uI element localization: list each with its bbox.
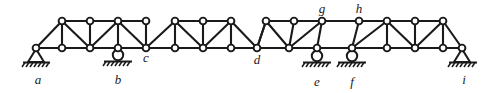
joint-node — [143, 18, 150, 25]
diagonal-member — [203, 21, 231, 48]
joint-node — [59, 18, 66, 25]
roller-circle-icon — [312, 51, 322, 61]
joint-node — [200, 18, 207, 25]
joint-node — [286, 45, 293, 52]
diagonal-member — [62, 21, 90, 48]
label-a: a — [35, 72, 42, 87]
joint-node — [172, 45, 179, 52]
joint-node — [384, 45, 391, 52]
joint-node-b — [115, 45, 122, 52]
joint-node — [412, 18, 419, 25]
joint-node — [59, 45, 66, 52]
roller-circle-icon — [347, 51, 357, 61]
truss-members — [36, 21, 462, 48]
joint-node — [384, 18, 391, 25]
joint-node-i — [459, 45, 466, 52]
diagonal-member — [266, 21, 289, 48]
joint-node — [228, 18, 235, 25]
joint-labels: a b c d e f g h i — [35, 1, 466, 89]
joint-node-d — [254, 45, 261, 52]
label-f: f — [350, 74, 356, 89]
truss-diagram-svg: a b c d e f g h i — [0, 0, 492, 93]
support-roller-e — [302, 51, 331, 67]
label-e: e — [314, 74, 320, 89]
joint-node — [291, 18, 298, 25]
diagonal-member — [415, 21, 443, 48]
joint-node — [115, 18, 122, 25]
joint-node — [440, 45, 447, 52]
joint-node — [87, 45, 94, 52]
diagonal-member — [90, 21, 118, 48]
label-d: d — [254, 52, 261, 67]
label-c: c — [143, 50, 149, 65]
label-i: i — [462, 72, 466, 87]
end-post-left — [36, 21, 62, 48]
diagonal-member — [387, 21, 415, 48]
joint-node — [172, 18, 179, 25]
joint-node-f — [349, 45, 356, 52]
joint-node — [440, 18, 447, 25]
label-g: g — [319, 1, 326, 16]
diagonal-member — [118, 21, 146, 48]
joint-node-a — [33, 45, 40, 52]
label-h: h — [356, 1, 363, 16]
end-post-right — [443, 21, 462, 48]
truss-figure: a b c d e f g h i — [0, 0, 492, 93]
joint-node — [200, 45, 207, 52]
support-roller-f — [337, 51, 366, 67]
diagonal-member — [231, 21, 257, 48]
label-b: b — [115, 72, 122, 87]
diagonal-member — [175, 21, 203, 48]
joint-node — [412, 45, 419, 52]
joint-node — [263, 18, 270, 25]
joint-node — [228, 45, 235, 52]
joint-node — [87, 18, 94, 25]
diagonal-member — [146, 21, 175, 48]
joint-node-h — [356, 18, 363, 25]
joint-node-g — [319, 18, 326, 25]
end-post-members — [36, 21, 462, 48]
joint-node-e — [314, 45, 321, 52]
